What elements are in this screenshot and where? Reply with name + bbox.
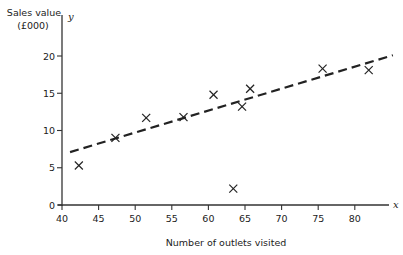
x-tick-label: 60	[202, 213, 214, 224]
x-tick-label: 65	[239, 213, 251, 224]
x-axis-label: Number of outlets visited	[166, 237, 287, 248]
axes	[58, 15, 389, 206]
regression-line	[70, 55, 393, 152]
x-tick-label: 75	[312, 213, 324, 224]
ticks: 40455055606570758005101520	[43, 51, 361, 225]
data-point-x-marker	[180, 113, 188, 121]
x-tick-label: 70	[276, 213, 288, 224]
x-tick-label: 40	[56, 213, 68, 224]
x-axis-symbol: x	[393, 199, 399, 210]
y-axis-label: Sales value	[7, 7, 61, 18]
y-tick-label: 0	[49, 200, 55, 211]
data-point-x-marker	[229, 185, 237, 193]
scatter-chart: 40455055606570758005101520 Sales value (…	[0, 0, 403, 255]
y-tick-label: 15	[43, 88, 55, 99]
data-point-x-marker	[319, 65, 327, 73]
data-point-x-marker	[365, 66, 373, 74]
x-tick-label: 80	[349, 213, 361, 224]
dashed-trend-line	[70, 55, 393, 152]
y-tick-label: 5	[49, 162, 55, 173]
data-point-x-marker	[238, 103, 246, 111]
data-point-x-marker	[246, 85, 254, 93]
y-tick-label: 10	[43, 125, 55, 136]
data-point-x-marker	[210, 91, 218, 99]
data-points	[75, 65, 373, 193]
x-tick-label: 45	[93, 213, 105, 224]
x-tick-label: 50	[129, 213, 141, 224]
x-tick-label: 55	[166, 213, 178, 224]
data-point-x-marker	[75, 162, 83, 170]
y-axis-symbol: y	[67, 11, 74, 22]
y-tick-label: 20	[43, 51, 55, 62]
data-point-x-marker	[142, 114, 150, 122]
y-axis-unit: (£000)	[17, 20, 49, 31]
